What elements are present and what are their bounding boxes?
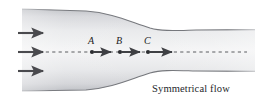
fluid-highlight xyxy=(22,9,255,91)
fluid-body xyxy=(22,9,255,91)
point-label-a: A xyxy=(88,36,94,46)
figure-caption: Symmetrical flow xyxy=(152,83,230,94)
symmetrical-flow-figure: A B C Symmetrical flow xyxy=(0,0,255,104)
point-label-c: C xyxy=(144,36,151,46)
point-label-b: B xyxy=(116,36,122,46)
